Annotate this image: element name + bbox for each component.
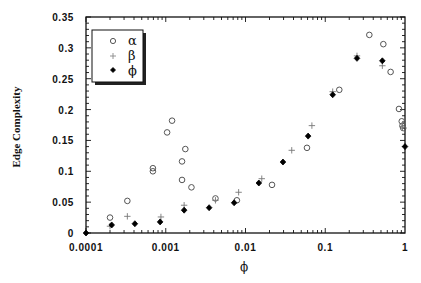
scatter-chart: 00.050.10.150.20.250.30.350.00010.0010.0… [0,0,421,283]
x-tick-label: 0.0001 [69,242,103,253]
y-tick-label: 0.05 [52,197,74,208]
x-tick-label: 1 [402,242,408,253]
legend: α β ϕ [92,30,146,85]
legend-label-alpha: α [128,33,137,48]
x-tick-label: 0.01 [235,242,257,253]
y-tick-label: 0 [68,228,74,239]
legend-label-beta: β [128,48,136,63]
x-tick-label: 0.001 [152,242,180,253]
y-tick-label: 0.25 [52,74,74,85]
legend-label-phi: ϕ [128,63,137,78]
y-tick-label: 0.2 [58,105,74,116]
y-tick-label: 0.3 [58,43,74,54]
y-axis-label: Edge Complexity [10,86,22,167]
y-tick-label: 0.15 [52,135,74,146]
y-tick-label: 0.1 [58,166,74,177]
x-tick-label: 0.1 [317,242,333,253]
y-tick-label: 0.35 [52,12,74,23]
x-axis-label: ϕ [240,260,248,274]
